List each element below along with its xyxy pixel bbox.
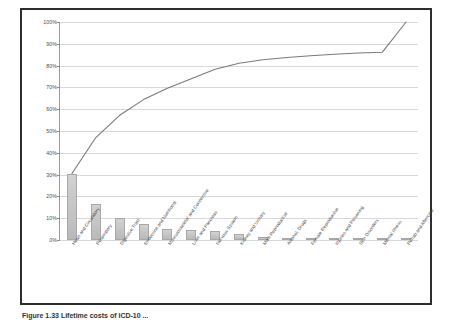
- pareto-chart: 0%10%20%30%40%50%60%70%80%90%100% Heart …: [22, 10, 430, 303]
- figure-caption: Figure 1.33 Lifetime costs of ICD-10 ...: [22, 312, 148, 323]
- x-label-slot: Respiratory: [83, 241, 107, 303]
- x-label-slot: Mental Illness: [370, 241, 394, 303]
- y-axis-tick-label: 0%: [49, 237, 57, 243]
- x-label-slot: Skin Disorders: [346, 241, 370, 303]
- y-axis-tick-mark: [57, 22, 60, 23]
- y-axis-tick-label: 10%: [46, 215, 57, 221]
- x-label-slot: Female Reproductive: [298, 241, 322, 303]
- y-axis-tick-label: 100%: [43, 19, 57, 25]
- bar-slot: [132, 22, 156, 240]
- x-label-slot: Digestive Tract: [107, 241, 131, 303]
- y-axis-tick-mark: [57, 153, 60, 154]
- y-axis-tick-label: 80%: [46, 63, 57, 69]
- bar-slot: [227, 22, 251, 240]
- x-label-slot: Injuries and Poisoning: [322, 241, 346, 303]
- bar-slot: [60, 22, 84, 240]
- y-axis-tick-mark: [57, 66, 60, 67]
- x-label-slot: Endocrine and Nutritional: [131, 241, 155, 303]
- y-axis-tick-mark: [57, 131, 60, 132]
- bar-slot: [275, 22, 299, 240]
- x-label-slot: Alcohol, Drugs: [274, 241, 298, 303]
- x-axis-labels: Heart and CirculatoryRespiratoryDigestiv…: [59, 241, 418, 303]
- x-label-slot: Nervous System: [203, 241, 227, 303]
- bar-slot: [203, 22, 227, 240]
- y-axis-tick-label: 50%: [46, 128, 57, 134]
- x-label-slot: Rehab and Aftercare: [394, 241, 418, 303]
- y-axis-tick-mark: [57, 196, 60, 197]
- x-label-slot: Kidney and Urinary: [227, 241, 251, 303]
- x-label-slot: Male Reproductive: [251, 241, 275, 303]
- y-axis-tick-label: 40%: [46, 150, 57, 156]
- bar-slot: [370, 22, 394, 240]
- bar-slot: [251, 22, 275, 240]
- y-axis-tick-mark: [57, 109, 60, 110]
- y-axis-tick-label: 90%: [46, 41, 57, 47]
- y-axis-tick-label: 20%: [46, 193, 57, 199]
- y-axis-tick-label: 70%: [46, 84, 57, 90]
- y-axis-tick-label: 60%: [46, 106, 57, 112]
- y-axis-tick-label: 30%: [46, 172, 57, 178]
- bar: [67, 174, 77, 240]
- bar-slot: [394, 22, 418, 240]
- bar-slot: [108, 22, 132, 240]
- y-axis-tick-mark: [57, 87, 60, 88]
- y-axis-tick-mark: [57, 44, 60, 45]
- x-label-slot: Musculoskeletal and Connective: [155, 241, 179, 303]
- figure-frame: 0%10%20%30%40%50%60%70%80%90%100% Heart …: [20, 8, 432, 305]
- bar-slot: [299, 22, 323, 240]
- y-axis-tick-mark: [57, 175, 60, 176]
- x-label-slot: Heart and Circulatory: [59, 241, 83, 303]
- x-label-slot: Liver and Pancreas: [179, 241, 203, 303]
- y-axis-tick-mark: [57, 218, 60, 219]
